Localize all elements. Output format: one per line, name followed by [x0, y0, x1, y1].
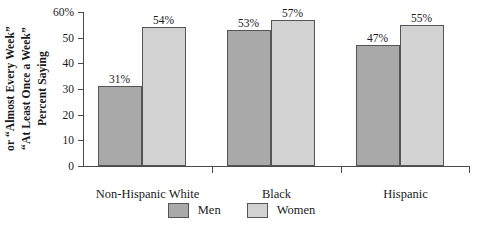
y-tick-label: 30	[63, 83, 75, 95]
y-axis-title-line-3: or “Almost Every Week”	[2, 26, 18, 151]
y-tick-label: 10	[63, 134, 75, 146]
bar-value-label: 47%	[367, 32, 388, 44]
bar-women-non-hispanic-white: 54%	[142, 27, 186, 166]
legend-swatch-men	[168, 203, 189, 218]
bar-women-hispanic: 55%	[400, 25, 444, 166]
y-tick-mark	[78, 12, 83, 13]
bar-group: 31%54%	[98, 12, 186, 166]
y-tick-mark	[78, 115, 83, 116]
y-tick-label: 40	[63, 57, 75, 69]
category-label-black: Black	[262, 187, 291, 202]
bar-value-label: 55%	[411, 12, 432, 24]
legend-label-men: Men	[198, 203, 221, 218]
bar-group: 53%57%	[227, 12, 315, 166]
y-tick-label: 20	[63, 109, 75, 121]
x-tick-mark	[469, 167, 470, 173]
legend-label-women: Women	[277, 203, 316, 218]
legend-item-men: Men	[168, 203, 221, 218]
bar-value-label: 53%	[238, 17, 259, 29]
bar-value-label: 54%	[153, 14, 174, 26]
bar-value-label: 57%	[282, 7, 303, 19]
category-label-hispanic: Hispanic	[383, 187, 427, 202]
bar-men-non-hispanic-white: 31%	[98, 86, 142, 166]
chart-legend: MenWomen	[0, 203, 483, 218]
y-axis-title-line-1: Percent Saying	[34, 51, 50, 126]
y-axis-title: Percent Saying “At Least Once a Week” or…	[0, 1, 52, 176]
y-tick-mark	[78, 38, 83, 39]
bar-men-black: 53%	[227, 30, 271, 166]
legend-item-women: Women	[247, 203, 316, 218]
legend-swatch-women	[247, 203, 268, 218]
y-tick-mark	[78, 140, 83, 141]
y-tick-mark	[78, 166, 83, 167]
y-axis-line	[83, 12, 84, 167]
y-tick-mark	[78, 89, 83, 90]
y-tick-label: 60%	[53, 6, 74, 18]
plot-area: 0102030405060% 31%54%53%57%47%55% Non-Hi…	[83, 12, 470, 167]
bar-men-hispanic: 47%	[356, 45, 400, 166]
bar-value-label: 31%	[109, 73, 130, 85]
bar-group: 47%55%	[356, 12, 444, 166]
x-axis-line	[83, 166, 470, 167]
x-tick-mark	[341, 167, 342, 173]
y-tick-mark	[78, 63, 83, 64]
y-tick-label: 0	[68, 160, 74, 172]
category-label-non-hispanic-white: Non-Hispanic White	[96, 187, 200, 202]
bar-chart-figure: Percent Saying “At Least Once a Week” or…	[0, 0, 483, 241]
y-tick-label: 50	[63, 32, 75, 44]
bar-women-black: 57%	[271, 20, 315, 166]
x-tick-mark	[212, 167, 213, 173]
y-axis-title-line-2: “At Least Once a Week”	[18, 27, 34, 150]
